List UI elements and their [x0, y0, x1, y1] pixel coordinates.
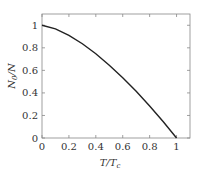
x-axis-label: T/Tc: [100, 157, 121, 170]
y-tick-label: 1: [32, 20, 38, 31]
y-tick-label: 0.4: [22, 87, 38, 98]
y-tick-label: 0.2: [22, 110, 38, 121]
line-chart: 00.20.40.60.81 00.20.40.60.81 T/Tc N0/N: [0, 0, 202, 175]
x-tick-label: 0.2: [61, 141, 77, 152]
x-axis-ticks: 00.20.40.60.81: [39, 14, 180, 152]
y-axis-ticks: 00.20.40.60.81: [22, 20, 190, 144]
x-tick-label: 0.8: [142, 141, 158, 152]
y-axis-label: N0/N: [6, 62, 19, 90]
data-series: [42, 25, 177, 138]
y-tick-label: 0.6: [22, 65, 38, 76]
x-tick-label: 1: [173, 141, 179, 152]
y-tick-label: 0.8: [22, 42, 38, 53]
x-tick-label: 0.6: [115, 141, 131, 152]
x-tick-label: 0: [39, 141, 45, 152]
x-tick-label: 0.4: [88, 141, 104, 152]
y-tick-label: 0: [32, 133, 38, 144]
series-line: [42, 25, 177, 138]
